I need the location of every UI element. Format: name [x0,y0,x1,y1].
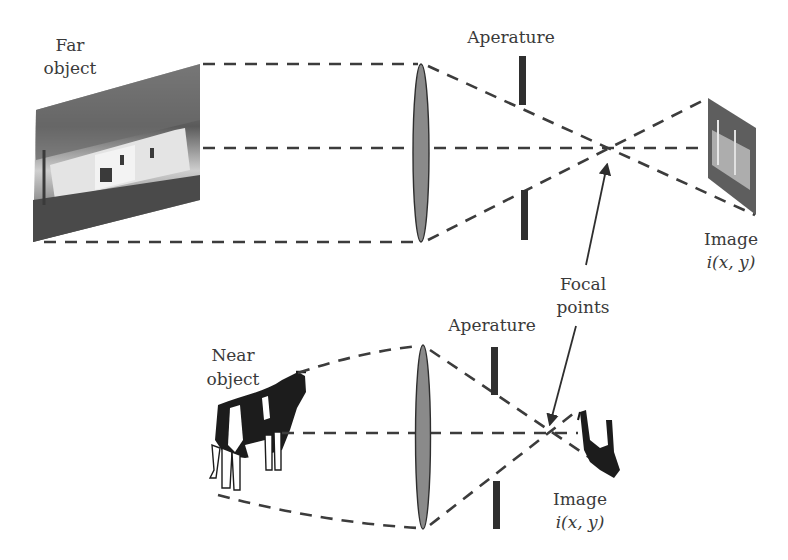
near-image-coords: i(x, y) [556,512,605,532]
focal-arrow-near [550,326,576,424]
far-lens [413,64,429,242]
near-object-cow [210,372,306,490]
near-aperture-top [491,347,498,395]
near-aperture-label: Aperature [447,315,535,335]
near-lens [416,345,431,529]
focal-points-label: Focal [560,274,606,294]
optics-diagram: Far object Aperature Image i(x, y) Focal… [0,0,788,560]
far-object-label-2: object [44,58,97,78]
near-image-cow [578,410,620,478]
focal-arrow-far [586,165,607,265]
far-object-label: Far [56,35,86,55]
near-object-label: Near [211,345,255,365]
focal-points-label-2: points [556,297,609,317]
far-image-coords: i(x, y) [707,252,756,272]
far-aperture-label: Aperature [466,27,554,47]
far-object-photo [33,64,200,242]
near-object-label-2: object [207,369,260,389]
far-aperture-bottom [521,190,528,240]
far-aperture-top [519,56,526,105]
near-aperture-bottom [493,481,500,529]
near-image-label: Image [553,489,607,509]
far-image-label: Image [704,229,758,249]
